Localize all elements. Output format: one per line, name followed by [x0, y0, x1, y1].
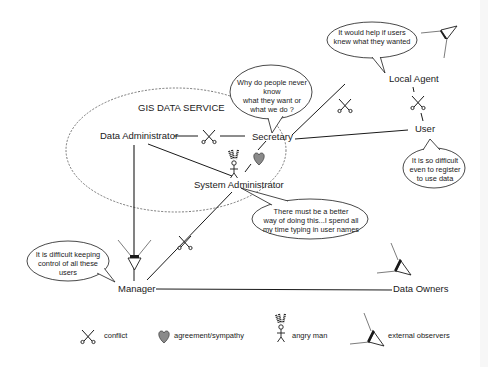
bubble-system-admin-text: There must be a better way of doing this… — [253, 208, 369, 235]
actor-data-owners[interactable]: Data Owners — [393, 284, 448, 294]
legend-scissors-icon — [81, 330, 95, 344]
legend-external-observers-label: external observers — [388, 332, 450, 340]
actor-secretary[interactable]: Secretary — [252, 132, 293, 142]
actor-user[interactable]: User — [415, 124, 435, 134]
legend-heart-icon — [159, 331, 169, 343]
actor-local-agent[interactable]: Local Agent — [389, 74, 439, 84]
conflict-scissors-icon — [178, 236, 192, 250]
actor-manager[interactable]: Manager — [118, 284, 156, 294]
agreement-heart-icon — [254, 153, 264, 165]
angry-man-icon — [229, 150, 238, 178]
legend-conflict-label: conflict — [104, 332, 127, 340]
legend-agreement-label: agreement/sympathy — [174, 332, 244, 340]
conflict-scissors-icon — [202, 130, 216, 144]
legend-angry-man-label: angry man — [292, 332, 327, 340]
legend-observer-icon — [350, 313, 384, 346]
bubble-secretary-text: Why do people never know what they want … — [231, 79, 313, 115]
actor-data-administrator[interactable]: Data Administrator — [100, 131, 178, 141]
bubble-user-text: It is so difficult even to register to u… — [404, 157, 466, 184]
external-observer-icon — [377, 243, 411, 275]
legend-angry-man-icon — [276, 314, 285, 342]
conflict-scissors-icon — [338, 99, 352, 113]
bubble-local-agent-text: It would help if users knew what they wa… — [329, 29, 415, 47]
bubble-manager-text: It is difficult keeping control of all t… — [27, 251, 109, 278]
external-observer-icon — [421, 26, 457, 58]
conflict-scissors-icon — [411, 96, 425, 110]
actor-system-administrator[interactable]: System Administrator — [194, 180, 284, 190]
group-label-gis-data-service: GIS DATA SERVICE — [138, 103, 225, 113]
